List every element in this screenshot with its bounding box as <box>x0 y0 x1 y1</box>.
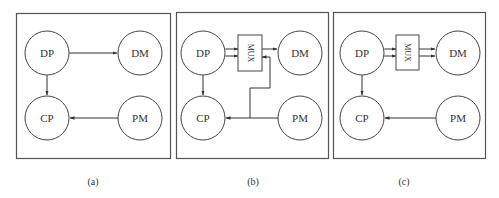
node-cp: CP <box>181 96 225 140</box>
caption-b: (b) <box>247 176 259 188</box>
svg-text:PM: PM <box>450 112 466 124</box>
node-pm: PM <box>436 96 480 140</box>
node-pm: PM <box>278 96 322 140</box>
svg-text:CP: CP <box>355 112 368 124</box>
architecture-diagram: DP DM CP PM (a) MUX DP DM CP PM (b) <box>0 0 499 198</box>
svg-text:DM: DM <box>131 47 149 59</box>
svg-text:CP: CP <box>196 112 209 124</box>
svg-text:DM: DM <box>291 47 309 59</box>
node-cp: CP <box>340 96 384 140</box>
mux-box: MUX <box>396 35 419 70</box>
node-dm: DM <box>118 31 162 75</box>
caption-c: (c) <box>398 176 409 188</box>
svg-text:MUX: MUX <box>403 43 412 62</box>
svg-text:CP: CP <box>40 112 53 124</box>
svg-text:MUX: MUX <box>246 44 255 63</box>
panel-a: DP DM CP PM (a) <box>17 14 171 188</box>
mux-box: MUX <box>238 35 262 71</box>
node-dp: DP <box>340 31 384 75</box>
caption-a: (a) <box>87 176 98 188</box>
node-dm: DM <box>278 31 322 75</box>
node-dm: DM <box>436 31 480 75</box>
node-pm: PM <box>118 96 162 140</box>
svg-text:DP: DP <box>355 47 369 59</box>
node-dp: DP <box>181 31 225 75</box>
panel-b: MUX DP DM CP PM (b) <box>177 13 329 188</box>
node-dp: DP <box>25 31 69 75</box>
node-cp: CP <box>25 96 69 140</box>
svg-text:PM: PM <box>292 112 308 124</box>
panel-c: MUX DP DM CP PM (c) <box>334 13 486 188</box>
svg-text:DM: DM <box>449 47 467 59</box>
svg-text:DP: DP <box>40 47 54 59</box>
svg-text:DP: DP <box>196 47 210 59</box>
svg-text:PM: PM <box>132 112 148 124</box>
